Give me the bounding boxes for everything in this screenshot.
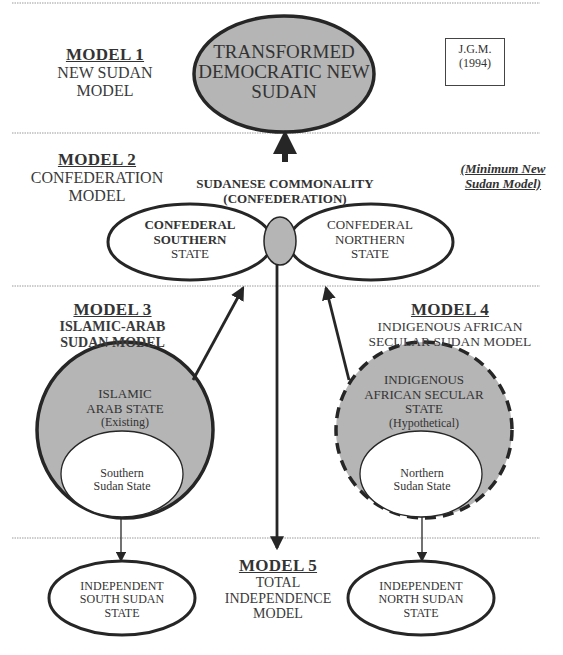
author-initials: J.G.M. [446,43,504,57]
confederal-southern-line3: STATE [140,247,240,262]
model-3-title: MODEL 3 [50,300,175,319]
commonality-line2: (CONFEDERATION) [190,192,380,207]
model-3-subtitle-line2: SUDAN MODEL [50,335,175,351]
annotation-line2: Sudan Model) [448,177,558,192]
southern-sudan-line2: Sudan State [72,480,172,493]
model-5-subtitle-line3: MODEL [213,606,343,622]
confederal-southern-line2: SOUTHERN [140,233,240,248]
islamic-arab-line2: ARAB STATE [65,402,185,417]
author-year: (1994) [446,57,504,71]
indigenous-note: (Hypothetical) [359,417,489,430]
independent-south-line3: STATE [67,607,177,620]
minimum-new-sudan-annotation: (Minimum New Sudan Model) [448,162,558,191]
confederal-southern-text: CONFEDERAL SOUTHERN STATE [140,218,240,262]
sudanese-commonality-node [264,217,296,265]
independent-south-line2: SOUTH SUDAN [67,593,177,606]
commonality-line1: SUDANESE COMMONALITY [190,177,380,192]
northern-sudan-line2: Sudan State [372,480,472,493]
model-5-subtitle-line1: TOTAL [213,575,343,591]
independent-north-line3: STATE [366,607,476,620]
annotation-line1: (Minimum New [448,162,558,177]
author-signature-box: J.G.M. (1994) [445,38,505,86]
model-5-subtitle-line2: INDEPENDENCE [213,591,343,607]
model-1-subtitle-line1: NEW SUDAN [40,64,170,82]
islamic-arab-state-text: ISLAMIC ARAB STATE (Existing) [65,387,185,430]
independent-north-text: INDEPENDENT NORTH SUDAN STATE [366,580,476,620]
confederal-northern-text: CONFEDERAL NORTHERN STATE [320,218,420,262]
model-2-subtitle-line2: MODEL [22,187,172,205]
confederal-southern-line1: CONFEDERAL [140,218,240,233]
model-4-label: MODEL 4 INDIGENOUS AFRICAN SECULAR SUDAN… [355,300,545,349]
transformed-node-text: TRANSFORMED DEMOCRATIC NEW SUDAN [194,42,374,102]
model-4-title: MODEL 4 [355,300,545,319]
model-3-subtitle-line1: ISLAMIC-ARAB [50,319,175,335]
arrow-model3-to-confederal-southern [193,288,243,380]
model-2-label: MODEL 2 CONFEDERATION MODEL [22,150,172,205]
islamic-arab-line1: ISLAMIC [65,387,185,402]
transformed-line1: TRANSFORMED [194,42,374,62]
model-1-title: MODEL 1 [40,45,170,64]
confederal-northern-line2: NORTHERN [320,233,420,248]
southern-sudan-line1: Southern [72,467,172,480]
model-5-label: MODEL 5 TOTAL INDEPENDENCE MODEL [213,556,343,622]
model-4-subtitle-line1: INDIGENOUS AFRICAN [355,319,545,334]
model-1-label: MODEL 1 NEW SUDAN MODEL [40,45,170,100]
indigenous-line1: INDIGENOUS [359,373,489,388]
model-2-title: MODEL 2 [22,150,172,169]
indigenous-line2: AFRICAN SECULAR [359,388,489,403]
indigenous-line3: STATE [359,402,489,417]
transformed-line2: DEMOCRATIC NEW [194,62,374,82]
model-2-subtitle-line1: CONFEDERATION [22,169,172,187]
model-5-title: MODEL 5 [213,556,343,575]
northern-sudan-line1: Northern [372,467,472,480]
indigenous-state-text: INDIGENOUS AFRICAN SECULAR STATE (Hypoth… [359,373,489,430]
confederal-northern-line1: CONFEDERAL [320,218,420,233]
islamic-arab-note: (Existing) [65,416,185,429]
commonality-node-text: SUDANESE COMMONALITY (CONFEDERATION) [190,177,380,206]
independent-north-line1: INDEPENDENT [366,580,476,593]
arrow-model4-to-confederal-northern [326,288,349,380]
model-4-subtitle-line2: SECULAR SUDAN MODEL [355,334,545,349]
confederal-northern-line3: STATE [320,247,420,262]
southern-sudan-state-text: Southern Sudan State [72,467,172,494]
transformed-line3: SUDAN [194,82,374,102]
model-3-label: MODEL 3 ISLAMIC-ARAB SUDAN MODEL [50,300,175,350]
independent-north-line2: NORTH SUDAN [366,593,476,606]
independent-south-text: INDEPENDENT SOUTH SUDAN STATE [67,580,177,620]
northern-sudan-state-text: Northern Sudan State [372,467,472,494]
model-1-subtitle-line2: MODEL [40,82,170,100]
independent-south-line1: INDEPENDENT [67,580,177,593]
